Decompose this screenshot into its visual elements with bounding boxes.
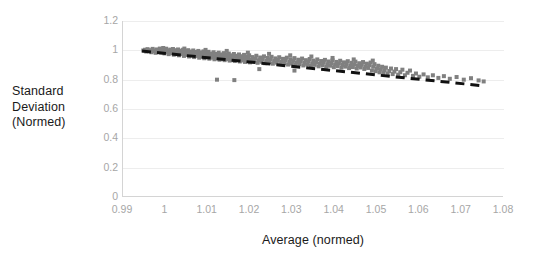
y-axis-title-line-3: (Normed) (12, 115, 98, 131)
scatter-point (380, 65, 384, 69)
x-tick-label: 1.01 (187, 203, 227, 215)
data-layer (123, 21, 504, 197)
scatter-point (352, 57, 356, 61)
scatter-point (232, 78, 236, 82)
x-axis-title: Average (normed) (122, 233, 504, 247)
x-tick-label: 1.05 (356, 203, 396, 215)
y-tick-label: 1.2 (84, 14, 118, 26)
scatter-point (442, 74, 446, 78)
scatter-point (309, 54, 313, 58)
scatter-points (141, 46, 485, 83)
y-tick-label: 0.8 (84, 73, 118, 85)
scatter-point (315, 57, 319, 61)
scatter-point (323, 58, 327, 62)
y-axis-title-line-1: Standard (12, 84, 98, 100)
scatter-point (371, 59, 375, 63)
scatter-point (292, 56, 296, 60)
scatter-point (331, 56, 335, 60)
y-tick-label: 0.2 (84, 161, 118, 173)
scatter-chart-figure: Standard Deviation (Normed) 00.20.40.60.… (0, 0, 539, 260)
y-tick-label: 0.6 (84, 102, 118, 114)
scatter-point (277, 55, 281, 59)
y-tick-label: 0.4 (84, 131, 118, 143)
x-tick-label: 1 (144, 203, 184, 215)
scatter-point (346, 59, 350, 63)
scatter-point (436, 76, 440, 80)
scatter-point (477, 78, 481, 82)
y-tick-label: 0 (84, 190, 118, 202)
scatter-point (267, 52, 271, 56)
scatter-point (370, 69, 374, 73)
scatter-point (257, 67, 261, 71)
x-tick-label: 1.08 (483, 203, 523, 215)
trendline (142, 51, 485, 86)
x-tick-label: 1.03 (271, 203, 311, 215)
scatter-point (376, 64, 380, 68)
scatter-point (161, 46, 165, 50)
scatter-point (338, 59, 342, 63)
x-tick-label: 0.99 (102, 203, 142, 215)
scatter-point (462, 78, 466, 82)
scatter-point (254, 54, 258, 58)
scatter-point (225, 49, 229, 53)
x-tick-label: 1.07 (441, 203, 481, 215)
plot-area (122, 21, 503, 197)
scatter-point (394, 67, 398, 71)
scatter-point (288, 53, 292, 57)
scatter-point (246, 51, 250, 55)
x-tick-label: 1.04 (314, 203, 354, 215)
y-tick-label: 1 (84, 43, 118, 55)
scatter-point (469, 76, 473, 80)
x-tick-label: 1.02 (229, 203, 269, 215)
scatter-point (361, 60, 365, 64)
scatter-point (408, 69, 412, 73)
x-tick-label: 1.06 (398, 203, 438, 215)
scatter-point (182, 47, 186, 51)
scatter-point (482, 79, 486, 83)
scatter-point (292, 69, 296, 73)
scatter-point (455, 75, 459, 79)
scatter-point (448, 77, 452, 81)
scatter-point (204, 48, 208, 52)
scatter-point (372, 62, 376, 66)
scatter-point (215, 78, 219, 82)
scatter-point (300, 57, 304, 61)
scatter-point (262, 54, 266, 58)
scatter-point (400, 68, 404, 72)
scatter-point (431, 73, 435, 77)
scatter-point (422, 72, 426, 76)
